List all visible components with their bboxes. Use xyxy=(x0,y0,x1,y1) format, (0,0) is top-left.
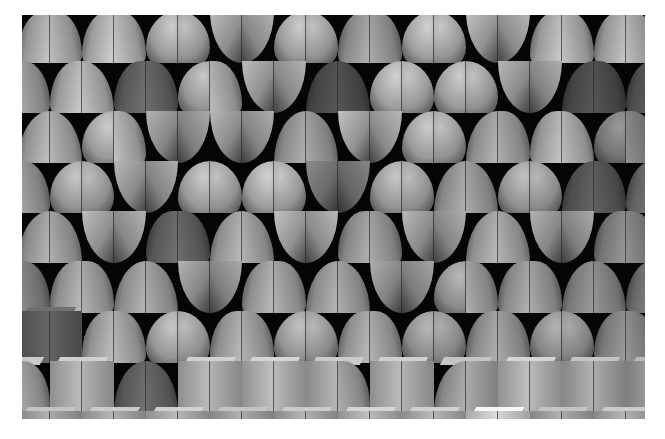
tile-left-petal xyxy=(22,311,50,363)
tile-right-petal xyxy=(594,61,626,113)
tile-left-petal xyxy=(434,161,466,213)
tile-left-petal xyxy=(498,61,530,113)
tile-left-petal xyxy=(402,211,434,263)
tile-right-petal xyxy=(274,361,306,413)
tile-seam xyxy=(465,161,466,213)
tile-wall-render xyxy=(22,15,645,419)
tile-seam xyxy=(401,61,402,113)
tile-seam xyxy=(209,161,210,213)
tile-right-petal xyxy=(370,111,402,163)
tile-left-petal xyxy=(210,411,242,419)
tile xyxy=(82,407,146,419)
tile-seam xyxy=(113,111,114,163)
tile-right-petal xyxy=(210,161,242,213)
tile-right-petal xyxy=(242,411,274,419)
tile xyxy=(146,407,210,419)
tile-left-petal xyxy=(402,411,434,419)
tile-seam xyxy=(529,361,530,413)
tile-left-petal xyxy=(146,111,178,163)
tile-left-petal xyxy=(242,261,274,313)
tile-right-petal xyxy=(402,161,434,213)
tile-left-petal xyxy=(402,15,434,63)
tile-left-petal xyxy=(210,111,242,163)
tile-right-petal xyxy=(306,311,338,363)
tile-seam xyxy=(49,411,50,419)
tile-left-petal xyxy=(466,15,498,63)
tile-seam xyxy=(145,361,146,413)
tile-left-petal xyxy=(498,161,530,213)
tile-right-petal xyxy=(22,61,50,113)
tile-seam xyxy=(593,161,594,213)
tile-right-petal xyxy=(114,411,146,419)
tile-left-petal xyxy=(50,161,82,213)
tile-left-petal xyxy=(402,311,434,363)
tile-seam xyxy=(145,61,146,113)
tile-left-petal xyxy=(178,361,210,413)
tile-seam xyxy=(561,111,562,163)
tile-right-petal xyxy=(626,411,645,419)
tile-right-petal xyxy=(370,15,402,63)
tile-seam xyxy=(241,411,242,419)
tile-right-petal xyxy=(594,161,626,213)
tile-left-petal xyxy=(466,211,498,263)
tile-right-petal xyxy=(50,411,82,419)
tile-right-petal xyxy=(434,211,466,263)
tile-right-petal xyxy=(434,411,466,419)
tile-seam xyxy=(369,111,370,163)
tile-seam xyxy=(305,211,306,263)
tile-seam xyxy=(433,211,434,263)
tile-right-petal xyxy=(338,61,370,113)
tile-right-petal xyxy=(626,211,645,263)
tile-seam xyxy=(113,211,114,263)
tile-left-petal xyxy=(274,411,306,419)
tile-left-petal xyxy=(562,361,594,413)
tile-seam xyxy=(625,411,626,419)
tile-left-petal xyxy=(594,15,626,63)
tile-seam xyxy=(593,261,594,313)
tile-seam xyxy=(273,261,274,313)
tile xyxy=(530,407,594,419)
tile-right-petal xyxy=(562,15,594,63)
tile-right-petal xyxy=(530,161,562,213)
tile-left-petal xyxy=(594,111,626,163)
tile-seam xyxy=(113,411,114,419)
tile-right-petal xyxy=(242,211,274,263)
tile-seam xyxy=(305,15,306,63)
tile xyxy=(466,407,530,419)
tile-seam xyxy=(401,161,402,213)
tile-left-petal xyxy=(434,61,466,113)
tile-left-petal xyxy=(242,161,274,213)
tile-right-petal xyxy=(22,161,50,213)
tile-seam xyxy=(209,361,210,413)
tile-seam xyxy=(49,311,50,363)
tile-right-petal xyxy=(50,311,82,363)
tile-left-petal xyxy=(530,311,562,363)
tile-seam xyxy=(369,411,370,419)
tile-seam xyxy=(337,61,338,113)
tile-right-petal xyxy=(530,361,562,413)
tile-right-petal xyxy=(22,361,50,413)
tile-seam xyxy=(81,361,82,413)
tile-seam xyxy=(625,211,626,263)
tile-seam xyxy=(241,15,242,63)
tile xyxy=(210,407,274,419)
tile-left-petal xyxy=(562,61,594,113)
tile-left-petal xyxy=(530,211,562,263)
tile-left-petal xyxy=(370,261,402,313)
tile-right-petal xyxy=(114,211,146,263)
tile-left-petal xyxy=(338,411,370,419)
tile-seam xyxy=(593,61,594,113)
tile-right-petal xyxy=(306,411,338,419)
tile-right-petal xyxy=(178,411,210,419)
tile-seam xyxy=(497,15,498,63)
tile-right-petal xyxy=(498,211,530,263)
tile-left-petal xyxy=(562,161,594,213)
tile-left-petal xyxy=(370,361,402,413)
tile-seam xyxy=(273,161,274,213)
tile-seam xyxy=(529,161,530,213)
tile-right-petal xyxy=(402,261,434,313)
tile-seam xyxy=(433,15,434,63)
tile-right-petal xyxy=(274,161,306,213)
tile-right-petal xyxy=(434,111,466,163)
tile-left-petal xyxy=(210,211,242,263)
